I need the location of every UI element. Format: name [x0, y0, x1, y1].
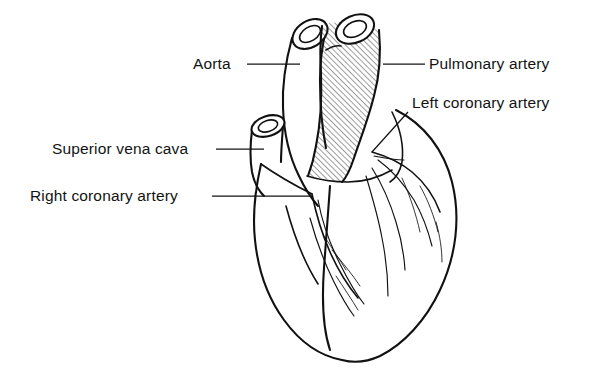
label-pulmonary-artery: Pulmonary artery	[429, 55, 550, 72]
label-right-coronary-artery: Right coronary artery	[30, 187, 178, 204]
right-coronary-artery-structure	[310, 194, 364, 316]
superior-vena-cava-structure	[249, 111, 288, 196]
label-superior-vena-cava: Superior vena cava	[52, 140, 188, 157]
label-left-coronary-artery: Left coronary artery	[412, 94, 549, 111]
left-coronary-artery-structure	[366, 152, 442, 296]
heart-diagram-svg: Aorta Pulmonary artery Left coronary art…	[0, 0, 605, 380]
heart-anatomy-figure: Aorta Pulmonary artery Left coronary art…	[0, 0, 605, 380]
label-aorta: Aorta	[193, 55, 231, 72]
